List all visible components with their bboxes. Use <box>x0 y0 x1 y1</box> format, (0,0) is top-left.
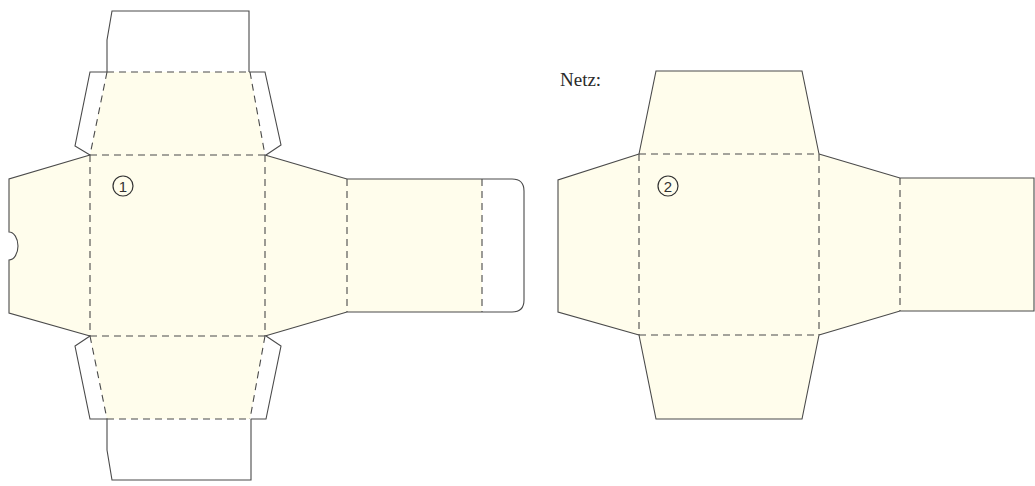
net-1-bottom-face <box>90 336 265 419</box>
net-1-far-right-face <box>347 179 482 312</box>
net-1-bottom-tab <box>107 419 251 480</box>
net-1-top-face <box>90 72 265 155</box>
box-nets-diagram: 1 2 Netz: <box>0 0 1035 486</box>
net-1-center-face <box>90 155 265 336</box>
net-2-far-right-face <box>900 178 1034 311</box>
net-1-top-tab <box>107 11 249 72</box>
net-1-left-face <box>9 155 90 336</box>
net-title-label: Netz: <box>560 69 601 90</box>
net-2-marker-number: 2 <box>664 178 672 195</box>
net-2-top-face <box>639 71 819 154</box>
net-2-left-face <box>558 154 639 335</box>
net-1: 1 <box>9 11 524 480</box>
net-2-bottom-face <box>639 335 819 419</box>
net-1-right-face <box>265 155 347 336</box>
net-2-right-face <box>819 154 900 335</box>
net-2-faces <box>558 71 1034 419</box>
net-1-marker-number: 1 <box>119 178 127 195</box>
net-2: 2 <box>558 71 1034 419</box>
